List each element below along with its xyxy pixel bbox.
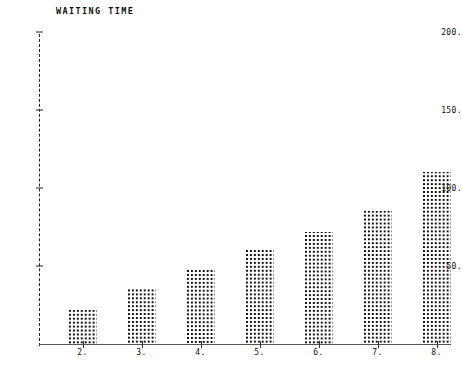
bar [304,232,333,344]
x-tick-label: 2. [70,348,96,357]
y-tick-mark [36,266,43,267]
x-axis-line [39,344,451,345]
x-tick-label: 8. [424,348,450,357]
y-tick-label: 200. [428,28,462,37]
bar [127,289,156,344]
bar [422,172,451,344]
chart-canvas: WAITING TIME 50.100.150.200. 2.3.4.5.6.7… [0,0,462,366]
x-tick-label: 7. [365,348,391,357]
y-tick-mark [36,188,43,189]
y-tick-mark [36,110,43,111]
bar [186,269,215,344]
chart-title: WAITING TIME [56,6,134,16]
bar [245,250,274,344]
x-tick-label: 6. [306,348,332,357]
bar [363,211,392,344]
y-tick-label: 150. [428,106,462,115]
x-tick-label: 3. [129,348,155,357]
y-axis-dashed-line [39,34,40,346]
x-tick-label: 4. [188,348,214,357]
y-tick-mark [36,32,43,33]
bar [68,310,97,344]
x-tick-label: 5. [247,348,273,357]
